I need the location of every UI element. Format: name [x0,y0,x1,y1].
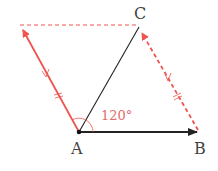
angle-label: 120° [101,108,132,123]
label-a: A [70,139,83,158]
label-b: B [194,139,206,158]
diagram-canvas: C A B 120° [0,0,218,171]
vector-diagram: C A B 120° [0,0,218,171]
label-c: C [134,4,146,23]
vector-bc [142,33,198,130]
vector-ad [23,30,79,132]
point-a [77,130,82,135]
